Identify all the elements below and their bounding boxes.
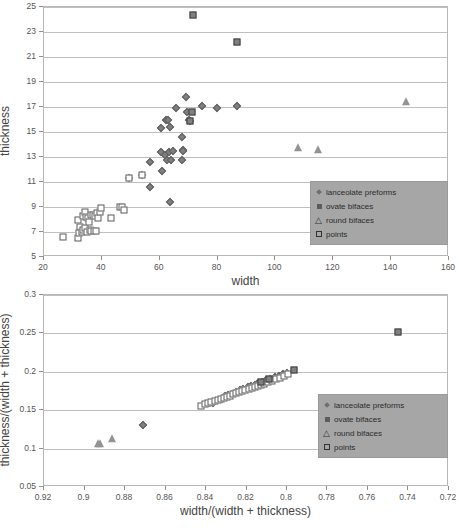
legend-item-open-square: points bbox=[315, 227, 443, 241]
legend-item-diamond: lanceolate preforms bbox=[315, 185, 443, 199]
x-tick-mark bbox=[43, 486, 44, 490]
y-tick-mark bbox=[39, 332, 43, 333]
data-point-filled-square bbox=[187, 117, 194, 124]
data-point-open-square bbox=[138, 171, 145, 178]
x-tick-mark bbox=[390, 256, 391, 260]
y-tick-label: 9 bbox=[0, 201, 36, 211]
y-tick-mark bbox=[39, 371, 43, 372]
y-tick-mark bbox=[39, 56, 43, 57]
gridline-horizontal bbox=[44, 82, 447, 83]
x-tick-label: 20 bbox=[23, 262, 63, 272]
y-tick-mark bbox=[39, 81, 43, 82]
data-point-diamond bbox=[172, 104, 180, 112]
x-tick-mark bbox=[448, 486, 449, 490]
x-tick-label: 0.86 bbox=[145, 492, 185, 502]
legend-label: ovate bifaces bbox=[326, 202, 373, 211]
data-point-triangle bbox=[402, 97, 410, 105]
x-tick-label: 0.74 bbox=[388, 492, 428, 502]
y-tick-mark bbox=[39, 31, 43, 32]
x-tick-mark bbox=[286, 486, 287, 490]
x-tick-label: 40 bbox=[81, 262, 121, 272]
legend-label: points bbox=[326, 230, 347, 239]
data-point-diamond bbox=[213, 104, 221, 112]
y-tick-label: 7 bbox=[0, 226, 36, 236]
data-point-open-square bbox=[93, 227, 100, 234]
gridline-horizontal bbox=[44, 295, 447, 296]
x-tick-mark bbox=[407, 486, 408, 490]
y-tick-label: 5 bbox=[0, 251, 36, 261]
legend-item-filled-square: ovate bifaces bbox=[323, 412, 443, 426]
x-tick-label: 0.72 bbox=[428, 492, 459, 502]
open-square-glyph bbox=[316, 231, 322, 237]
data-point-diamond bbox=[178, 133, 186, 141]
x-tick-mark bbox=[246, 486, 247, 490]
x-tick-mark bbox=[326, 486, 327, 490]
legend-label: points bbox=[334, 443, 355, 452]
data-point-open-square bbox=[98, 205, 105, 212]
diamond-glyph bbox=[324, 402, 330, 408]
x-tick-mark bbox=[124, 486, 125, 490]
y-tick-mark bbox=[39, 106, 43, 107]
data-point-diamond bbox=[182, 93, 190, 101]
triangle-glyph: △ bbox=[315, 216, 323, 224]
diamond-glyph bbox=[316, 189, 322, 195]
gridline-horizontal bbox=[44, 132, 447, 133]
legend-label: ovate bifaces bbox=[334, 415, 381, 424]
gridline-horizontal bbox=[44, 157, 447, 158]
gridline-horizontal bbox=[44, 372, 447, 373]
x-tick-label: 160 bbox=[428, 262, 459, 272]
y-axis-title: thickness/(width + thickness) bbox=[0, 313, 12, 466]
data-point-open-square bbox=[120, 206, 127, 213]
x-tick-mark bbox=[274, 256, 275, 260]
diamond-icon bbox=[315, 187, 324, 197]
x-tick-mark bbox=[159, 256, 160, 260]
open-square-icon bbox=[323, 442, 332, 452]
y-tick-label: 0.3 bbox=[0, 289, 36, 299]
data-point-filled-square bbox=[233, 39, 240, 46]
x-axis-title: width/(width + thickness) bbox=[43, 504, 448, 518]
y-tick-mark bbox=[39, 206, 43, 207]
x-tick-label: 0.9 bbox=[64, 492, 104, 502]
open-square-icon bbox=[315, 229, 324, 239]
legend-label: round bifaces bbox=[334, 429, 382, 438]
data-point-filled-square bbox=[189, 11, 196, 18]
legend-label: round bifaces bbox=[326, 216, 374, 225]
x-tick-mark bbox=[84, 486, 85, 490]
gridline-horizontal bbox=[44, 32, 447, 33]
data-point-diamond bbox=[165, 198, 173, 206]
x-tick-label: 60 bbox=[139, 262, 179, 272]
y-tick-label: 19 bbox=[0, 76, 36, 86]
x-tick-label: 0.82 bbox=[226, 492, 266, 502]
open-square-glyph bbox=[324, 444, 330, 450]
x-tick-label: 120 bbox=[312, 262, 352, 272]
scatter-chart-thickness-vs-width: 579111315171921232520406080100120140160w… bbox=[0, 0, 459, 284]
square-glyph bbox=[325, 417, 330, 422]
data-point-diamond bbox=[158, 167, 166, 175]
data-point-diamond bbox=[139, 421, 147, 429]
data-point-open-square bbox=[86, 219, 93, 226]
gridline-horizontal bbox=[44, 7, 447, 8]
data-point-diamond bbox=[166, 123, 174, 131]
y-tick-label: 23 bbox=[0, 26, 36, 36]
data-point-filled-square bbox=[265, 376, 272, 383]
legend-item-triangle: △round bifaces bbox=[315, 213, 443, 227]
filled-square-icon bbox=[315, 201, 324, 211]
y-tick-mark bbox=[39, 6, 43, 7]
chart-legend: lanceolate preformsovate bifaces△round b… bbox=[318, 394, 448, 458]
data-point-diamond bbox=[197, 102, 205, 110]
data-point-filled-square bbox=[189, 109, 196, 116]
y-tick-mark bbox=[39, 181, 43, 182]
data-point-open-square bbox=[95, 215, 102, 222]
y-tick-label: 11 bbox=[0, 176, 36, 186]
y-tick-mark bbox=[39, 294, 43, 295]
data-point-triangle bbox=[294, 143, 302, 151]
x-tick-mark bbox=[165, 486, 166, 490]
x-tick-mark bbox=[448, 256, 449, 260]
x-tick-mark bbox=[217, 256, 218, 260]
y-tick-mark bbox=[39, 156, 43, 157]
data-point-filled-square bbox=[257, 379, 264, 386]
legend-item-diamond: lanceolate preforms bbox=[323, 398, 443, 412]
legend-label: lanceolate preforms bbox=[334, 401, 404, 410]
data-point-triangle bbox=[314, 145, 322, 153]
y-tick-label: 25 bbox=[0, 1, 36, 11]
